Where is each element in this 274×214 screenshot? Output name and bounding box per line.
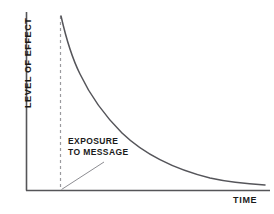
chart-figure: LEVEL OF EFFECT TIME EXPOSURE TO MESSAGE — [0, 0, 274, 214]
annotation-leader-line — [62, 162, 105, 190]
exposure-annotation: EXPOSURE TO MESSAGE — [68, 136, 129, 158]
annotation-line-2: TO MESSAGE — [68, 147, 129, 158]
decay-curve — [61, 16, 265, 185]
annotation-line-1: EXPOSURE — [68, 136, 129, 147]
chart-canvas — [0, 0, 274, 214]
y-axis-label: LEVEL OF EFFECT — [23, 0, 33, 108]
x-axis-label: TIME — [233, 195, 257, 205]
